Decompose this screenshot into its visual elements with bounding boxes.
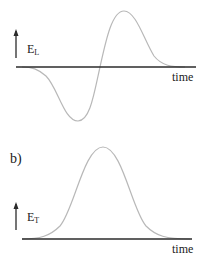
panel-b-arrowhead-icon xyxy=(14,202,19,209)
panel-a xyxy=(14,11,197,121)
panel-b xyxy=(14,147,193,239)
panel-b-label: b) xyxy=(10,152,22,166)
panel-a-arrowhead-icon xyxy=(14,29,19,36)
panel-b-subscript: T xyxy=(34,216,39,225)
panel-a-quantity-label: EL xyxy=(27,43,39,57)
panel-a-curve-el xyxy=(22,11,185,121)
diagram-canvas xyxy=(0,0,205,265)
panel-a-subscript: L xyxy=(34,48,39,57)
panel-b-quantity-label: ET xyxy=(27,211,39,225)
panel-b-time-label: time xyxy=(172,243,193,255)
panel-a-time-label: time xyxy=(172,71,193,83)
panel-b-curve-et xyxy=(22,147,190,239)
